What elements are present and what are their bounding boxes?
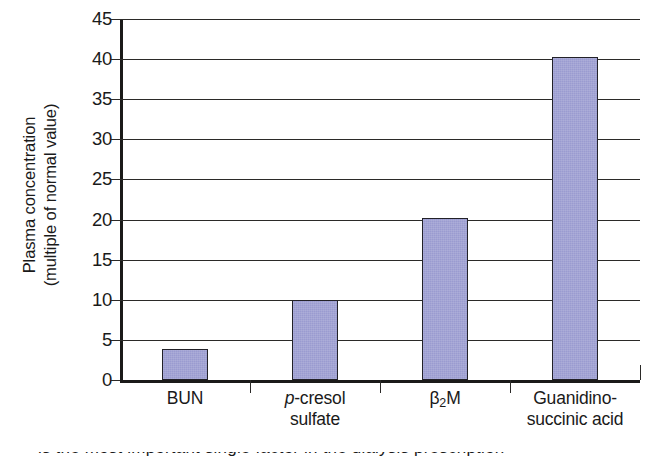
y-tick-mark-35 — [111, 99, 120, 100]
cut-off-caption: is the most important single factor in t… — [0, 452, 664, 462]
x-axis-right-tick — [640, 365, 641, 380]
x-axis-label-0: BUN — [120, 388, 250, 409]
y-tick-label-25: 25 — [66, 170, 112, 189]
y-tick-mark-20 — [111, 220, 120, 221]
bar-chart-figure: Plasma concentration (multiple of normal… — [0, 0, 664, 462]
y-tick-label-35: 35 — [66, 90, 112, 109]
x-axis-labels: BUNp-cresolsulfateβ2MGuanidino-succinic … — [120, 388, 640, 448]
y-tick-mark-45 — [111, 19, 120, 20]
y-tick-label-5: 5 — [66, 331, 112, 350]
y-tick-label-10: 10 — [66, 291, 112, 310]
y-tick-mark-5 — [111, 340, 120, 341]
y-tick-label-15: 15 — [66, 251, 112, 270]
y-axis-title-line1: Plasma concentration — [19, 104, 40, 287]
x-axis-label-3: Guanidino-succinic acid — [510, 388, 640, 430]
plot-area — [120, 19, 640, 380]
y-tick-mark-15 — [111, 260, 120, 261]
y-axis-line — [120, 19, 123, 380]
y-tick-mark-30 — [111, 139, 120, 140]
y-tick-label-20: 20 — [66, 211, 112, 230]
x-axis-label-2: β2M — [380, 388, 510, 409]
bar-bun — [162, 349, 208, 380]
bar-2m — [422, 218, 468, 380]
y-tick-mark-25 — [111, 179, 120, 180]
cut-off-caption-text: is the most important single factor in t… — [38, 452, 504, 458]
y-tick-label-30: 30 — [66, 130, 112, 149]
bar-guanidinosuccinic-acid — [552, 57, 598, 380]
y-tick-label-40: 40 — [66, 50, 112, 69]
y-axis-title: Plasma concentration (multiple of normal… — [12, 0, 68, 390]
y-axis-title-line2: (multiple of normal value) — [40, 104, 61, 287]
y-tick-mark-10 — [111, 300, 120, 301]
y-tick-mark-0 — [111, 380, 120, 381]
x-axis-label-1: p-cresolsulfate — [250, 388, 380, 430]
y-axis-tick-labels: 051015202530354045 — [64, 0, 112, 462]
y-tick-label-45: 45 — [66, 10, 112, 29]
y-tick-mark-40 — [111, 59, 120, 60]
y-tick-label-0: 0 — [66, 371, 112, 390]
bar-p-cresol-sulfate — [292, 300, 338, 380]
gridline-45 — [120, 19, 640, 20]
